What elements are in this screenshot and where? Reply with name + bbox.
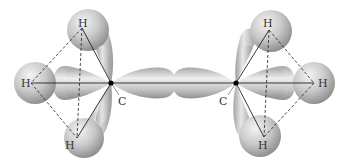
h-left-top-label: H bbox=[78, 17, 88, 30]
h-left-bottom-label: H bbox=[65, 139, 75, 152]
h-right-right-label: H bbox=[318, 77, 328, 90]
ethane-orbital-diagram: C C H H H H H H bbox=[0, 0, 354, 164]
right-carbon-nucleus bbox=[233, 80, 238, 85]
h-right-bottom-label: H bbox=[258, 139, 268, 152]
left-carbon-nucleus bbox=[108, 80, 113, 85]
left-carbon-label: C bbox=[118, 95, 126, 108]
h-left-left-label: H bbox=[21, 77, 31, 90]
right-carbon-label: C bbox=[219, 95, 227, 108]
left-h-sphere-bottom bbox=[64, 118, 104, 158]
left-h-sphere-top bbox=[67, 9, 109, 51]
h-right-top-label: H bbox=[263, 17, 273, 30]
